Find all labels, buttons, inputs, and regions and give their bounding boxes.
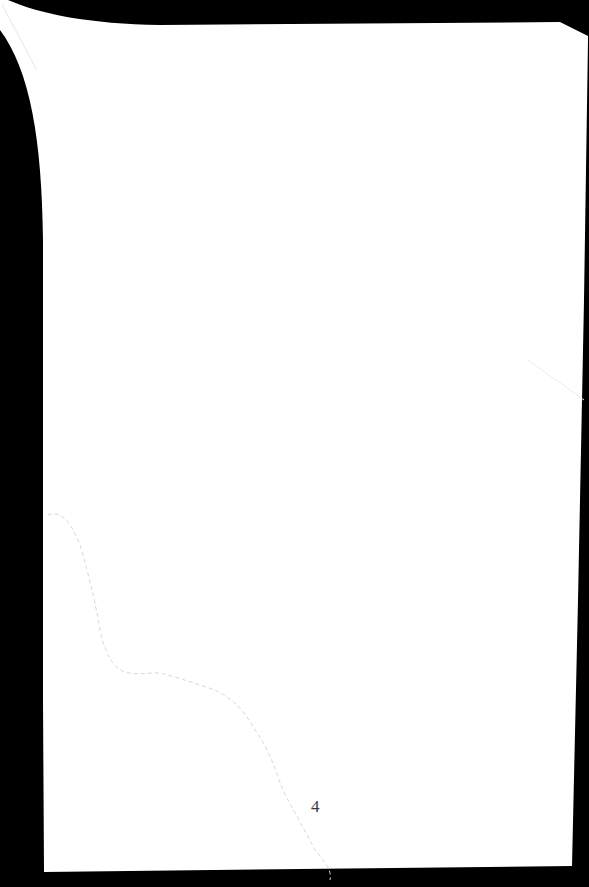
page-number: 4 xyxy=(311,798,320,815)
scanned-page-frame: 4 xyxy=(0,0,589,887)
paper-shape xyxy=(0,0,588,872)
paper-sheet xyxy=(0,0,589,887)
